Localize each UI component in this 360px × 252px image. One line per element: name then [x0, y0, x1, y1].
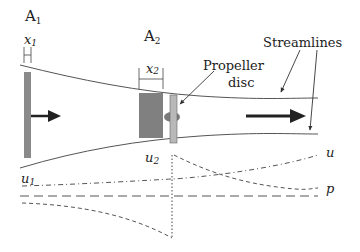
outflow-arrow: [246, 109, 306, 123]
pressure-p-curve-upstream: [22, 203, 172, 238]
propeller-pointer-arrow: [180, 71, 214, 104]
lower-streamline: [20, 134, 318, 169]
inflow-arrow: [31, 110, 61, 122]
label-p: p: [326, 181, 335, 196]
pressure-p-curve-downstream: [174, 155, 318, 189]
label-x2: x2: [146, 61, 159, 76]
label-propeller: Propeller: [203, 58, 265, 73]
label-u2: u2: [145, 150, 159, 166]
section-1-bar: [24, 72, 31, 158]
label-a1: A1: [24, 7, 42, 26]
upper-streamline: [20, 65, 318, 99]
section-2-block: [139, 93, 163, 138]
velocity-u-curve: [22, 155, 318, 186]
label-x1: x1: [24, 32, 37, 48]
label-disc: disc: [228, 75, 254, 90]
label-u: u: [326, 145, 334, 160]
label-a2: A2: [143, 27, 161, 46]
label-u1: u1: [21, 171, 35, 187]
actuator-disc-diagram: A1 A2 x1 x2 Propeller disc Streamlines u…: [0, 0, 360, 252]
propeller-disc-bar: [170, 95, 177, 143]
label-streamlines: Streamlines: [263, 35, 342, 50]
x1-dimension-marker: [24, 47, 31, 63]
